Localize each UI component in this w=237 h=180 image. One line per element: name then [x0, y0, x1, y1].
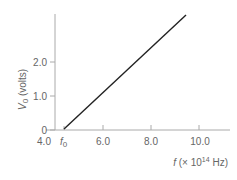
y-tick-label-1: 1.0 — [33, 91, 47, 102]
x-tick-label-0: 4.0 — [37, 136, 51, 147]
y-ticks: 0 1.0 2.0 — [33, 57, 55, 136]
y-tick-label-0: 0 — [41, 125, 47, 136]
chart: 0 1.0 2.0 4.0 6.0 8.0 10.0 f0 f (× 1014 … — [0, 0, 237, 180]
x-tick-label-3: 10.0 — [190, 136, 210, 147]
x-axis-title: f (× 1014 Hz) — [173, 156, 228, 168]
y-tick-label-2: 2.0 — [33, 57, 47, 68]
x-tick-label-2: 8.0 — [144, 136, 158, 147]
y-axis-title: V0 (volts) — [17, 69, 30, 110]
f0-annotation: f0 — [60, 136, 68, 149]
data-line — [64, 15, 186, 129]
x-tick-label-1: 6.0 — [96, 136, 110, 147]
